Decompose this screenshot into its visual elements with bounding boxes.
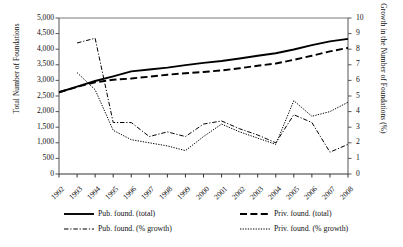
- legend-label: Priv. found. (total): [274, 209, 332, 218]
- series-line: [77, 73, 348, 151]
- legend-label: Pub. found. (total): [98, 209, 155, 218]
- legend-label: Priv. found. (% growth): [274, 224, 348, 233]
- chart-figure: Total Number of Foundations Growth in th…: [0, 0, 403, 247]
- legend-item: Pub. found. (% growth): [64, 224, 172, 233]
- legend-item: Priv. found. (total): [240, 209, 332, 218]
- legend-swatch-dotted-icon: [240, 225, 270, 233]
- legend-swatch-solid-icon: [64, 210, 94, 218]
- chart-legend: Pub. found. (total)Priv. found. (total)P…: [64, 209, 394, 243]
- series-line: [59, 48, 348, 92]
- legend-item: Pub. found. (total): [64, 209, 155, 218]
- legend-label: Pub. found. (% growth): [98, 224, 172, 233]
- legend-swatch-dashed-icon: [240, 210, 270, 218]
- series-line: [77, 38, 348, 152]
- legend-item: Priv. found. (% growth): [240, 224, 348, 233]
- legend-swatch-dash-dot-icon: [64, 225, 94, 233]
- series-line: [59, 39, 348, 92]
